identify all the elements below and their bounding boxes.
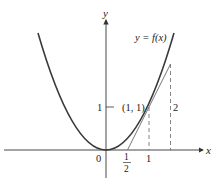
diagram-canvas: y x y = f(x) 1 (1, 1) 2 0 1 1 2: [0, 0, 224, 188]
rise-label: 2: [173, 102, 178, 113]
x-tick-label-1: 1: [146, 153, 151, 164]
y-axis-label: y: [102, 7, 108, 19]
curve-label: y = f(x): [134, 32, 167, 44]
point-label: (1, 1): [122, 102, 145, 114]
y-tick-label: 1: [97, 102, 102, 113]
x-tick-half-denominator: 2: [124, 164, 129, 174]
origin-label: 0: [96, 153, 101, 164]
x-axis-label: x: [205, 144, 211, 156]
x-tick-half-numerator: 1: [124, 152, 129, 162]
